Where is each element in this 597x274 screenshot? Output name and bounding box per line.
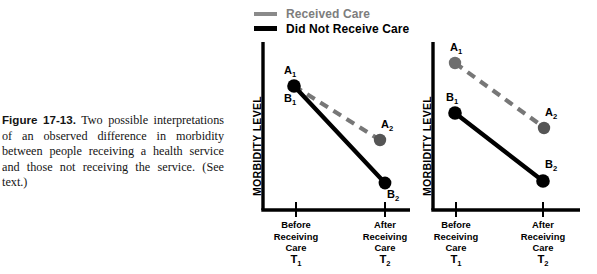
tick-line-2: Receiving: [500, 231, 586, 243]
legend-label-received-care: Received Care: [286, 7, 370, 21]
data-point-a2: [538, 122, 550, 134]
legend-item-received-care: Received Care: [254, 6, 484, 21]
legend-line-black-icon: [254, 26, 277, 31]
x-tick-label-before-right: Before Receiving Care T1: [413, 219, 499, 270]
tick-symbol-t1: T1: [253, 254, 339, 270]
chart-panel-right: MORBIDITY LEVEL A1 B1 A2 B2 Before Recei…: [408, 36, 583, 274]
point-label-a2-left: A2: [381, 118, 393, 133]
tick-symbol-t2: T2: [500, 254, 586, 270]
tick-symbol-t1: T1: [413, 254, 499, 270]
legend-item-did-not-receive-care: Did Not Receive Care: [254, 21, 484, 36]
chart-panel-left: MORBIDITY LEVEL A1 B1 A2 B2 Before Recei…: [238, 36, 413, 274]
series-line-did-not-receive-care: [294, 86, 385, 183]
tick-line-2: Receiving: [253, 231, 339, 243]
data-point-a1: [449, 57, 461, 69]
point-label-b2-right: B2: [545, 158, 557, 173]
data-point-a2: [374, 134, 386, 146]
y-axis-title-left: MORBIDITY LEVEL: [251, 96, 263, 196]
point-label-a2-right: A2: [545, 106, 557, 121]
legend-label-did-not-receive-care: Did Not Receive Care: [286, 22, 409, 36]
tick-line-1: Before: [253, 219, 339, 231]
tick-line-1: Before: [413, 219, 499, 231]
tick-line-1: After: [500, 219, 586, 231]
x-tick-label-before-left: Before Receiving Care T1: [253, 219, 339, 270]
data-point-b2: [536, 174, 550, 188]
series-line-received-care: [455, 63, 542, 126]
series-line-did-not-receive-care: [455, 113, 543, 181]
point-label-b1-right: B1: [446, 91, 458, 106]
data-point-b1: [448, 106, 462, 120]
point-label-b2-left: B2: [387, 188, 399, 203]
tick-line-2: Receiving: [413, 231, 499, 243]
chart-legend: Received Care Did Not Receive Care: [254, 6, 484, 36]
point-label-a1-right: A1: [450, 41, 462, 56]
point-label-a1-left: A1: [284, 64, 296, 79]
legend-line-gray-icon: [254, 12, 277, 16]
figure-caption: Figure 17-13. Two possible interpretatio…: [2, 112, 224, 191]
y-axis-title-right: MORBIDITY LEVEL: [421, 96, 433, 196]
figure-number: Figure 17-13.: [2, 113, 76, 126]
x-tick-label-after-right: After Receiving Care T2: [500, 219, 586, 270]
point-label-b1-left: B1: [284, 92, 296, 107]
data-point-a1-b1: [287, 79, 301, 93]
